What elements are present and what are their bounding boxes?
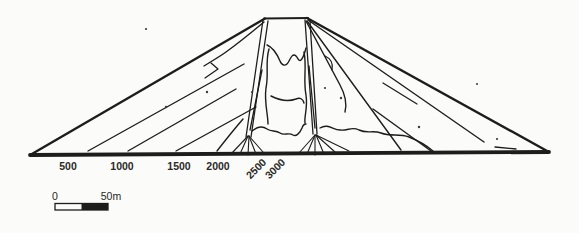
tick-label-3000: 3000 [262, 156, 287, 181]
tick-label-1500: 1500 [167, 160, 191, 172]
core-outline [252, 45, 307, 136]
tick-label-500: 500 [59, 160, 77, 172]
scale-bar-zero-label: 0 [52, 190, 58, 202]
axis-tick-labels: 500 1000 1500 2000 2500 3000 [59, 156, 287, 181]
speck-dots [145, 28, 498, 140]
scale-bar-length-label: 50m [101, 190, 122, 202]
scale-bar: 0 50m [52, 190, 121, 210]
dam-cross-section-figure: 500 1000 1500 2000 2500 3000 0 50m [0, 0, 579, 233]
scanned-figure-page: 500 1000 1500 2000 2500 3000 0 50m [0, 0, 579, 233]
upstream-shell-lines [88, 22, 264, 151]
left-filter-band [232, 20, 268, 155]
crest-line [264, 18, 308, 19]
scale-bar-filled-half [82, 204, 109, 211]
dam-drawing [30, 18, 549, 155]
downstream-slope-line [307, 18, 548, 152]
downstream-shell-lines [306, 20, 516, 151]
tick-label-2000: 2000 [206, 160, 230, 172]
tick-label-2500: 2500 [243, 156, 268, 181]
tick-label-1000: 1000 [110, 160, 134, 172]
dam-base-line [30, 152, 549, 155]
